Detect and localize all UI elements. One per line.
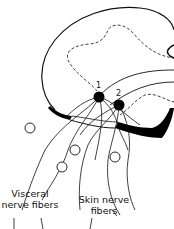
gray-matter-boundary — [67, 25, 174, 95]
visceral-leader-2 — [41, 218, 43, 229]
skin-label-line1: Skin nerve — [74, 194, 134, 205]
skin-leader — [90, 218, 92, 229]
neuron-1-label: 1 — [96, 81, 101, 90]
visceral-nerve-fibers-label: Visceral nerve fibers — [0, 188, 60, 210]
skin-nerve-fibers-label: Skin nerve fibers — [74, 194, 134, 216]
skin-label-line2: fibers — [74, 205, 134, 216]
visceral-label-line2: nerve fibers — [0, 199, 60, 210]
ganglion-circles — [25, 123, 120, 172]
neuron-2-label: 2 — [116, 89, 121, 98]
spinal-cord-notch — [167, 45, 174, 58]
dorsal-horn-dashed — [120, 94, 174, 115]
visceral-label-line1: Visceral — [0, 188, 60, 199]
black-band-left — [48, 106, 72, 120]
